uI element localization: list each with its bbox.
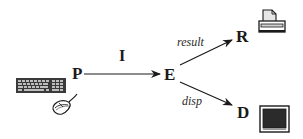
- node-p-label: P: [72, 65, 82, 82]
- node-d-label: D: [237, 104, 249, 121]
- mouse-icon: [50, 93, 80, 117]
- edge-er-label: result: [177, 36, 204, 48]
- keyboard-icon: [16, 78, 66, 93]
- edge-pe-label: I: [119, 48, 125, 64]
- monitor-icon: [259, 105, 290, 133]
- node-r-label: R: [236, 28, 248, 45]
- diagram-canvas: P E R D I result disp: [0, 0, 303, 139]
- node-e-label: E: [164, 66, 175, 83]
- edge-ed-label: disp: [182, 95, 202, 107]
- printer-icon: [258, 9, 287, 34]
